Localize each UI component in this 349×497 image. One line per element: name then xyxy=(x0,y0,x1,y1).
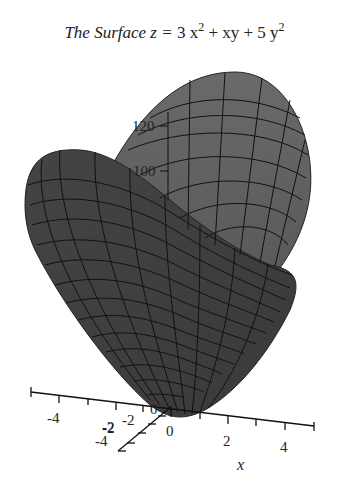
z-tick-120: 120 xyxy=(132,118,155,134)
x-tick-4: 4 xyxy=(280,439,288,455)
x-tick-0: 0 xyxy=(166,423,174,439)
y-tick-neg2b: -2 xyxy=(122,412,135,428)
y-tick-neg2a: -2 xyxy=(102,419,115,435)
x-axis-label: x xyxy=(236,456,244,473)
x-tick-2: 2 xyxy=(223,433,231,449)
y-tick-neg4: -4 xyxy=(95,433,108,449)
x-tick-neg4: -4 xyxy=(47,410,60,426)
y-tick-0: 0 xyxy=(150,401,158,417)
surface-plot: 120 100 -4 -2 0 2 4 x -4 -2 -2 0 xyxy=(0,0,349,497)
z-tick-100: 100 xyxy=(133,163,156,179)
